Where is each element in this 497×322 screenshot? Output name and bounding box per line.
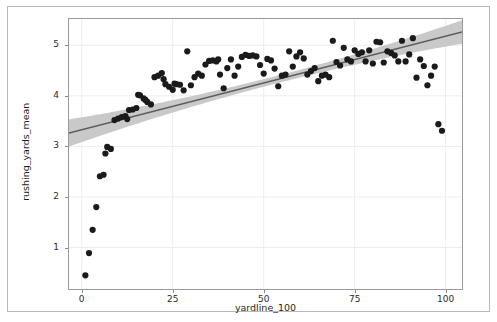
data-point [93, 204, 99, 210]
data-point [261, 71, 267, 77]
figure-root: 12345 0255075100 yardline_100 rushing_ya… [0, 0, 497, 322]
data-point [290, 63, 296, 69]
data-point [108, 146, 114, 152]
data-point [315, 78, 321, 84]
data-point [86, 250, 92, 256]
x-tick-mark [355, 290, 356, 293]
data-point [410, 35, 416, 41]
x-tick-mark [173, 290, 174, 293]
y-tick-mark [65, 248, 68, 249]
y-tick-mark [65, 197, 68, 198]
data-point [370, 60, 376, 66]
data-point [359, 49, 365, 55]
y-tick-mark [65, 45, 68, 46]
data-point [428, 73, 434, 79]
data-point [341, 45, 347, 51]
data-point [301, 55, 307, 61]
x-axis-title: yardline_100 [68, 303, 463, 313]
data-point [82, 272, 88, 278]
y-tick-label: 5 [35, 40, 59, 49]
data-point [424, 82, 430, 88]
data-point [406, 51, 412, 57]
data-point [217, 72, 223, 78]
data-point [90, 227, 96, 233]
data-point [100, 172, 106, 178]
data-point [268, 57, 274, 63]
data-point [362, 58, 368, 64]
y-axis-title: rushing_yards_mean [21, 92, 31, 212]
data-point [228, 56, 234, 62]
data-point [435, 121, 441, 127]
y-tick-mark [65, 96, 68, 97]
data-point [312, 65, 318, 71]
data-point [282, 72, 288, 78]
data-point [417, 56, 423, 62]
data-point [124, 116, 130, 122]
figure-card: 12345 0255075100 yardline_100 rushing_ya… [7, 6, 490, 312]
data-point [215, 56, 221, 62]
data-point [381, 59, 387, 65]
x-tick-mark [446, 290, 447, 293]
data-point [297, 49, 303, 55]
data-point [392, 52, 398, 58]
plot-area [68, 18, 463, 290]
data-point [432, 63, 438, 69]
data-point [272, 65, 278, 71]
data-point [177, 82, 183, 88]
data-point [275, 83, 281, 89]
data-point [184, 48, 190, 54]
data-point [102, 150, 108, 156]
y-tick-label: 4 [35, 91, 59, 100]
x-tick-mark [264, 290, 265, 293]
data-point [170, 87, 176, 93]
data-point [399, 38, 405, 44]
data-point [133, 105, 139, 111]
data-point [148, 101, 154, 107]
data-point [257, 62, 263, 68]
data-point [231, 73, 237, 79]
data-point [199, 73, 205, 79]
data-point [235, 63, 241, 69]
scatter-plot-canvas [69, 19, 462, 289]
x-tick-mark [82, 290, 83, 293]
data-point [330, 38, 336, 44]
y-tick-mark [65, 146, 68, 147]
data-point [377, 39, 383, 45]
data-point [337, 62, 343, 68]
data-point [326, 74, 332, 80]
data-point [159, 70, 165, 76]
data-point [188, 82, 194, 88]
data-point [366, 47, 372, 53]
data-point [421, 63, 427, 69]
data-point [253, 53, 259, 59]
y-tick-label: 3 [35, 141, 59, 150]
y-tick-label: 1 [35, 243, 59, 252]
data-point [221, 85, 227, 91]
data-point [395, 58, 401, 64]
y-tick-label: 2 [35, 192, 59, 201]
data-point [348, 58, 354, 64]
data-point [286, 48, 292, 54]
data-point [181, 87, 187, 93]
data-point [224, 65, 230, 71]
data-point [439, 128, 445, 134]
data-point [403, 58, 409, 64]
data-point [413, 75, 419, 81]
